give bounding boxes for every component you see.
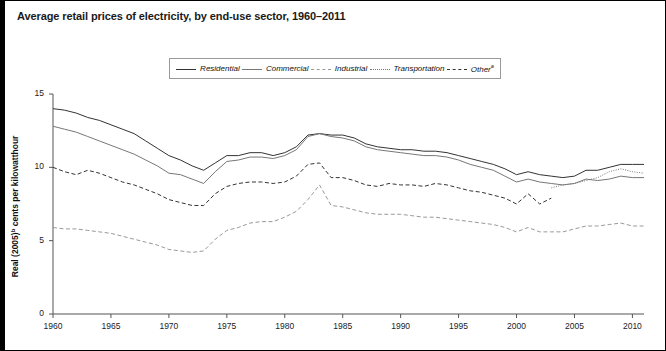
x-tick-label: 1975 [210, 321, 244, 331]
y-tick-label: 0 [22, 308, 44, 318]
series-industrial [53, 185, 644, 252]
axis-lines [53, 94, 644, 314]
x-tick-label: 2010 [615, 321, 649, 331]
y-tick-label: 15 [22, 88, 44, 98]
x-tick-label: 2000 [500, 321, 534, 331]
x-tick-label: 1960 [36, 321, 70, 331]
y-ticks [49, 94, 53, 314]
y-tick-label: 5 [22, 235, 44, 245]
x-tick-label: 1980 [268, 321, 302, 331]
x-tick-label: 1985 [326, 321, 360, 331]
x-tick-label: 1990 [384, 321, 418, 331]
chart-figure: Average retail prices of electricity, by… [0, 0, 666, 351]
series-commercial [53, 126, 644, 185]
series-residential [53, 109, 644, 178]
plot-area [1, 1, 666, 351]
x-ticks [53, 314, 632, 318]
y-tick-label: 10 [22, 161, 44, 171]
x-tick-label: 1965 [94, 321, 128, 331]
x-tick-label: 1970 [152, 321, 186, 331]
x-tick-label: 2005 [557, 321, 591, 331]
series-other [53, 163, 551, 206]
x-tick-label: 1995 [442, 321, 476, 331]
